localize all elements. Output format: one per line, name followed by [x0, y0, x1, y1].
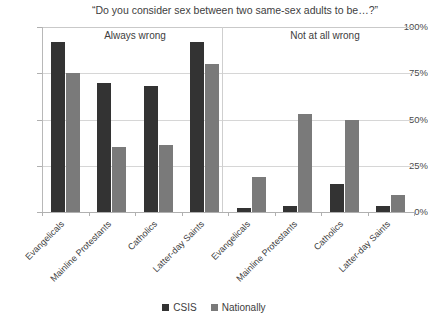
bars-layer [42, 27, 414, 212]
bar [144, 86, 158, 212]
bar [159, 145, 173, 212]
x-axis-label: Latter-day Saints [199, 219, 200, 220]
chart-title: “Do you consider sex between two same-se… [60, 4, 410, 16]
legend-swatch-icon [162, 304, 169, 311]
x-axis-label-text: Latter-day Saints [337, 219, 392, 274]
bar [51, 42, 65, 212]
legend-item[interactable]: Nationally [211, 302, 266, 313]
x-axis-tick-mark [182, 212, 183, 216]
chart-legend: CSISNationally [0, 302, 428, 313]
legend-item[interactable]: CSIS [162, 302, 196, 313]
x-axis-label: Catholics [338, 219, 339, 220]
bar [97, 83, 111, 213]
bar [205, 64, 219, 212]
x-axis-tick-mark [321, 212, 322, 216]
x-axis-label-text: Evangelicals [24, 219, 67, 262]
bar [391, 195, 405, 212]
x-axis-label: Evangelicals [245, 219, 246, 220]
x-axis-label-text: Evangelicals [210, 219, 253, 262]
bar [376, 206, 390, 212]
x-axis-tick-mark [135, 212, 136, 216]
bar [345, 120, 359, 213]
x-axis-tick-mark [275, 212, 276, 216]
x-axis-tick-mark [368, 212, 369, 216]
legend-label: Nationally [222, 302, 266, 313]
legend-label: CSIS [173, 302, 196, 313]
x-axis-label: Mainline Protestants [292, 219, 293, 220]
bar [190, 42, 204, 212]
x-axis-label-text: Catholics [312, 219, 345, 252]
bar [298, 114, 312, 212]
x-axis-label-text: Latter-day Saints [151, 219, 206, 274]
x-axis-label: Latter-day Saints [385, 219, 386, 220]
x-axis-tick-mark [89, 212, 90, 216]
x-axis-tick-mark [414, 212, 415, 216]
bar [330, 184, 344, 212]
x-axis-tick-mark [228, 212, 229, 216]
bar [252, 177, 266, 212]
x-axis-label: Evangelicals [59, 219, 60, 220]
bar [237, 208, 251, 212]
legend-swatch-icon [211, 304, 218, 311]
x-axis-tick-mark [42, 212, 43, 216]
x-axis-label: Catholics [152, 219, 153, 220]
x-axis-label: Mainline Protestants [106, 219, 107, 220]
bar [283, 206, 297, 212]
bar [112, 147, 126, 212]
bar [66, 73, 80, 212]
x-axis-label-text: Catholics [126, 219, 159, 252]
bar-chart: “Do you consider sex between two same-se… [0, 0, 428, 326]
